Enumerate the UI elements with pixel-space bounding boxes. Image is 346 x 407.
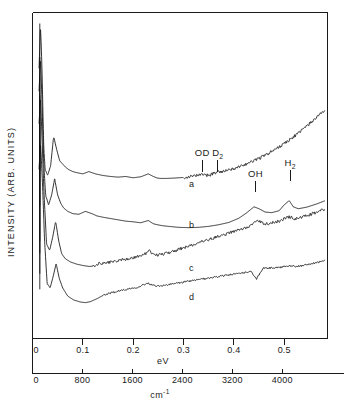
wavenumber-axis-title: cm-1	[150, 388, 169, 400]
peak-label-subscript: 2	[219, 153, 223, 160]
wavenumber-tick-label: 0	[34, 375, 39, 385]
wavenumber-tick-label: 3200	[222, 375, 243, 385]
ev-tick-label: 0.1	[76, 345, 89, 355]
peak-label-h2: H2	[285, 157, 296, 170]
ev-tick-label: 0.2	[127, 345, 140, 355]
ev-axis: 00.10.20.30.40.5	[33, 339, 291, 356]
peak-label-text: OH	[248, 168, 263, 179]
y-axis-label: INTENSITY (ARB. UNITS)	[6, 127, 16, 257]
peak-label-text: H	[285, 157, 292, 168]
wavenumber-tick-label: 800	[75, 375, 91, 385]
figure-canvas: INTENSITY (ARB. UNITS) ODD2OHH2 a b c d …	[0, 0, 346, 407]
spectrum-curve-a	[39, 30, 324, 179]
curve-label-b: b	[189, 220, 194, 230]
plot-frame	[33, 13, 328, 339]
peak-label-d2: D2	[212, 147, 223, 160]
ev-tick-label: 0.5	[278, 345, 291, 355]
ev-axis-title: eV	[157, 356, 169, 366]
ev-tick-label: 0	[34, 345, 39, 355]
spectrum-curve-c	[39, 100, 324, 267]
spectrum-curve-d	[39, 145, 324, 302]
wavenumber-tick-label: 2400	[172, 375, 193, 385]
spectra-figure: INTENSITY (ARB. UNITS) ODD2OHH2 a b c d …	[0, 0, 346, 407]
ev-tick-label: 0.4	[227, 345, 240, 355]
spectra-group	[39, 24, 324, 303]
curve-label-c: c	[189, 263, 194, 273]
wavenumber-tick-label: 1600	[122, 375, 143, 385]
curve-label-a: a	[189, 179, 194, 189]
spectrum-curve-b	[39, 61, 324, 227]
curve-label-d: d	[189, 292, 194, 302]
peak-label-oh: OH	[248, 168, 263, 179]
wavenumber-tick-label: 4000	[272, 375, 293, 385]
peak-annotations: ODD2OHH2	[195, 147, 296, 192]
peak-label-text: D	[212, 147, 219, 158]
peak-label-subscript: 2	[292, 163, 296, 170]
peak-label-text: OD	[195, 147, 210, 158]
ev-tick-label: 0.3	[177, 345, 190, 355]
peak-label-od: OD	[195, 147, 210, 158]
